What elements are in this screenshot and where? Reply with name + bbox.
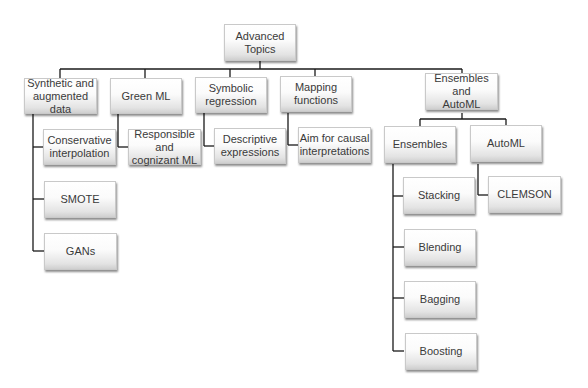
node-gans: GANs — [44, 233, 117, 270]
node-clemson: CLEMSON — [488, 176, 561, 213]
node-boosting: Boosting — [405, 333, 477, 370]
node-stacking: Stacking — [403, 177, 475, 214]
node-responsible-cognizant-ml: Responsible and cognizant ML — [128, 129, 201, 165]
node-conservative-interpolation: Conservative interpolation — [43, 129, 116, 165]
node-advanced-topics: Advanced Topics — [224, 24, 296, 61]
advanced-topics-diagram: Advanced Topics Synthetic and augmented … — [0, 0, 588, 388]
node-aim-causal-interpretations: Aim for causal interpretations — [298, 127, 371, 163]
node-automl: AutoML — [470, 125, 542, 162]
node-symbolic-regression: Symbolic regression — [195, 77, 267, 113]
node-green-ml: Green ML — [110, 78, 182, 114]
node-blending: Blending — [404, 229, 476, 266]
node-ensembles-and-automl: Ensembles and AutoML — [425, 73, 498, 110]
node-ensembles: Ensembles — [384, 126, 456, 163]
node-bagging: Bagging — [404, 281, 476, 318]
node-descriptive-expressions: Descriptive expressions — [214, 128, 286, 164]
node-synthetic-augmented-data: Synthetic and augmented data — [24, 78, 97, 114]
node-smote: SMOTE — [44, 181, 116, 218]
node-mapping-functions: Mapping functions — [280, 76, 352, 112]
